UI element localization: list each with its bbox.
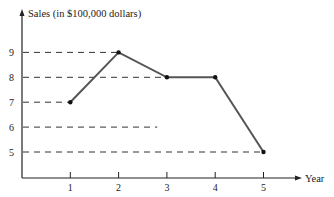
y-tick-label: 8 [9,72,14,83]
x-ticks: 12345 [68,172,266,193]
x-tick-label: 4 [213,182,218,193]
dashed-reference-lines [23,52,264,152]
data-point-markers [68,50,266,154]
y-tick-label: 9 [9,47,14,58]
data-point [165,75,169,79]
x-tick-label: 1 [68,182,73,193]
y-axis-label: Sales (in $100,000 dollars) [28,8,142,20]
data-point [261,150,265,154]
y-axis-arrow-icon [20,9,25,16]
x-tick-label: 5 [261,182,266,193]
y-tick-label: 6 [9,122,14,133]
axes [20,9,303,181]
x-tick-label: 3 [164,182,169,193]
sales-line-chart: 12345 56789 Sales (in $100,000 dollars) … [0,0,334,197]
y-tick-label: 5 [9,147,14,158]
sales-series-line [70,52,263,152]
data-point [116,50,120,54]
x-tick-label: 2 [116,182,121,193]
data-point [68,100,72,104]
x-axis-label: Year [305,173,325,184]
y-ticks: 56789 [9,47,14,158]
x-axis-arrow-icon [295,176,302,181]
y-tick-label: 7 [9,97,14,108]
data-point [213,75,217,79]
